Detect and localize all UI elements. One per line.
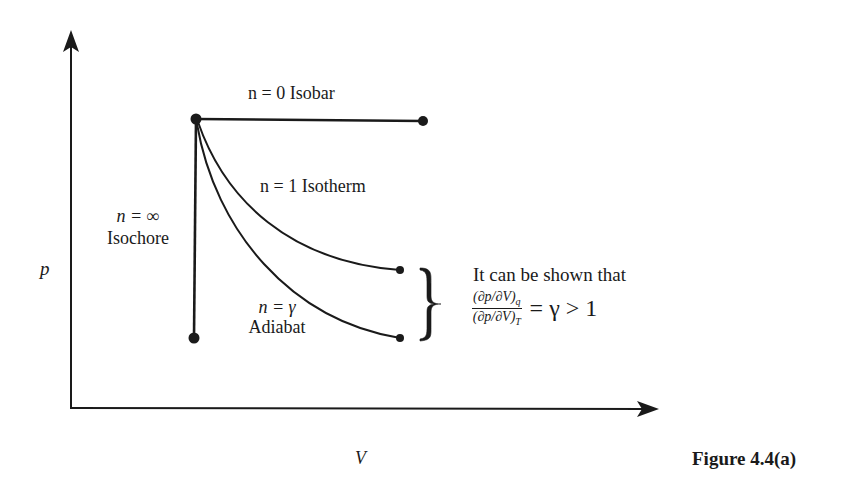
ratio-relation: = γ > 1 [530, 295, 598, 322]
isochore-label: n = ∞ Isochore [88, 205, 188, 249]
adiabat-end-point [396, 334, 404, 342]
ratio-denominator: (∂p/∂V)T [472, 309, 522, 327]
ratio-numerator: (∂p/∂V)q [472, 290, 522, 309]
numerator-subscript: q [516, 296, 521, 307]
isobar-line [196, 119, 423, 121]
isochore-end-point [189, 333, 200, 344]
isochore-line [194, 119, 196, 338]
isotherm-label-text: n = 1 Isotherm [260, 176, 366, 196]
isobar-end-point [418, 116, 428, 126]
denominator-subscript: T [515, 316, 521, 327]
ratio-equation: (∂p/∂V)q (∂p/∂V)T = γ > 1 [472, 290, 597, 328]
isobar-label: n = 0 Isobar [248, 83, 335, 104]
right-brace-icon [420, 268, 441, 341]
x-axis-label: V [355, 448, 366, 469]
pv-diagram [0, 0, 849, 501]
figure-caption: Figure 4.4(a) [692, 448, 796, 470]
numerator-text: (∂p/∂V) [473, 289, 516, 304]
isotherm-label: n = 1 Isotherm [260, 176, 366, 197]
initial-state-point [191, 114, 202, 125]
annotation-text: It can be shown that [473, 264, 626, 286]
x-axis-line [70, 408, 645, 409]
denominator-text: (∂p/∂V) [473, 309, 516, 324]
isochore-name: Isochore [88, 227, 188, 249]
partial-derivative-ratio: (∂p/∂V)q (∂p/∂V)T [472, 290, 522, 328]
isochore-exponent: n = ∞ [88, 205, 188, 227]
isotherm-end-point [396, 266, 404, 274]
adiabat-label: n = γ Adiabat [232, 297, 322, 337]
adiabat-exponent: n = γ [232, 297, 322, 317]
y-axis-label: p [40, 258, 50, 280]
adiabat-name: Adiabat [232, 317, 322, 337]
isobar-label-text: n = 0 Isobar [248, 83, 335, 103]
